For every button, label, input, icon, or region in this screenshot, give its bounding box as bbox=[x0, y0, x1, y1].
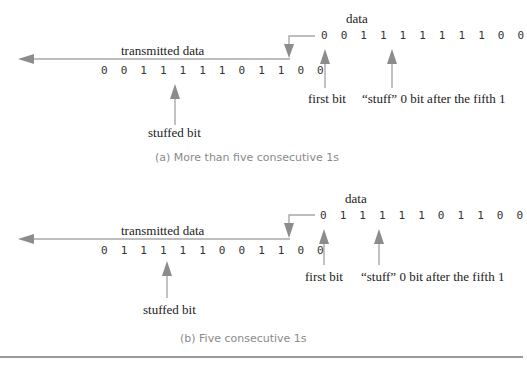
first-bit-arrowhead bbox=[320, 49, 330, 64]
figure-separator bbox=[0, 356, 523, 358]
data-label: data bbox=[346, 11, 368, 27]
connector-arrowhead bbox=[284, 44, 294, 58]
first-bit-label: first bit bbox=[305, 269, 343, 285]
panel-caption: (b) Five consecutive 1s bbox=[180, 332, 307, 345]
transmitted-arrowhead bbox=[18, 234, 34, 244]
panel-caption: (a) More than five consecutive 1s bbox=[155, 151, 339, 164]
stuffed-bit-arrowhead bbox=[162, 261, 172, 276]
stuff-point-arrowhead bbox=[387, 49, 397, 64]
stuff-note-label: “stuff” 0 bit after the fifth 1 bbox=[362, 91, 505, 107]
stuffed-bit-label: stuffed bit bbox=[143, 302, 196, 318]
data-bits: 0 1 1 1 1 1 0 1 1 0 0 bbox=[320, 209, 526, 222]
transmitted-data-label: transmitted data bbox=[121, 223, 204, 239]
first-bit-arrowhead bbox=[319, 229, 329, 244]
panel-a-arrows bbox=[18, 36, 397, 125]
transmitted-bits: 0 0 1 1 1 1 1 0 1 1 0 0 bbox=[101, 64, 327, 77]
stuff-point-arrowhead bbox=[374, 229, 384, 244]
transmitted-data-label: transmitted data bbox=[121, 43, 204, 59]
transmitted-bits: 0 1 1 1 1 1 0 0 1 1 0 0 bbox=[101, 244, 327, 257]
stuffed-bit-label: stuffed bit bbox=[148, 125, 201, 141]
connector-arrowhead bbox=[284, 223, 294, 238]
data-label: data bbox=[345, 191, 367, 207]
stuffed-bit-arrowhead bbox=[170, 84, 180, 99]
first-bit-label: first bit bbox=[308, 91, 346, 107]
data-bits: 0 0 1 1 1 1 1 1 1 0 0 bbox=[321, 29, 527, 42]
transmitted-arrowhead bbox=[18, 54, 34, 64]
stuff-note-label: “stuff” 0 bit after the fifth 1 bbox=[361, 269, 504, 285]
